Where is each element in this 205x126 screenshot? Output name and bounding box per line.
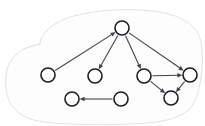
node-bottom-right[interactable] <box>164 91 178 105</box>
node-far-right[interactable] <box>183 68 197 82</box>
node-far-left[interactable] <box>41 68 55 82</box>
node-bottom-mid[interactable] <box>114 92 128 106</box>
node-bottom-left[interactable] <box>65 92 79 106</box>
node-top[interactable] <box>115 21 129 35</box>
edge-mid-right-to-far-right-line <box>152 75 180 76</box>
node-mid-left[interactable] <box>88 69 102 83</box>
node-mid-right[interactable] <box>137 69 151 83</box>
enclosing-region-outline <box>6 10 203 125</box>
graph-diagram <box>0 0 205 126</box>
